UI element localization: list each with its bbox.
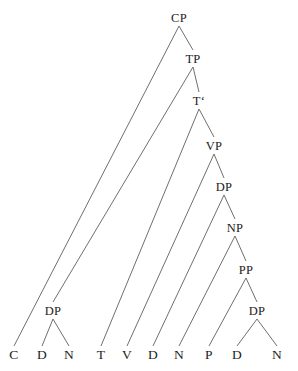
tbar-to-vp — [199, 109, 214, 137]
node-pp: PP — [239, 263, 254, 278]
dp-subj-to-n — [53, 319, 69, 346]
dp-obj-to-d — [153, 195, 224, 346]
leaf-n-object: N — [174, 347, 184, 363]
dp-low-to-n — [257, 319, 277, 346]
vp-to-dp-obj — [214, 154, 224, 178]
node-cp: CP — [171, 11, 187, 26]
cp-to-tp — [179, 26, 193, 50]
leaf-d-lower: D — [232, 347, 242, 363]
node-dp-object: DP — [216, 180, 233, 195]
syntax-tree-figure: CP TP T‘ VP DP NP PP DP DP C D N T V D N… — [0, 0, 298, 371]
tp-to-tbar — [193, 67, 199, 92]
vp-to-v — [127, 154, 214, 346]
np-to-pp — [235, 236, 246, 261]
np-to-n — [179, 236, 235, 346]
leaf-d-subject: D — [37, 347, 47, 363]
leaf-p: P — [205, 347, 213, 363]
node-dp-subject: DP — [45, 304, 62, 319]
node-np: NP — [227, 221, 244, 236]
node-dp-lower: DP — [249, 304, 266, 319]
pp-to-dp-low — [246, 278, 257, 302]
node-tp: TP — [185, 52, 200, 67]
tp-to-dp-subj — [53, 67, 193, 302]
leaf-n-lower: N — [272, 347, 282, 363]
leaf-v: V — [122, 347, 132, 363]
dp-low-to-d — [237, 319, 257, 346]
pp-to-p — [209, 278, 246, 346]
node-t-bar: T‘ — [193, 94, 205, 109]
tbar-to-t — [101, 109, 199, 346]
leaf-c: C — [9, 347, 18, 363]
leaf-n-subject: N — [64, 347, 74, 363]
cp-to-c — [14, 26, 179, 346]
leaf-d-object: D — [148, 347, 158, 363]
dp-obj-to-np — [224, 195, 235, 219]
dp-subj-to-d — [42, 319, 53, 346]
leaf-t: T — [97, 347, 106, 363]
node-vp: VP — [206, 139, 223, 154]
